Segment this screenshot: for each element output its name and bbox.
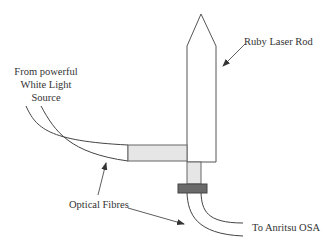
label-source-line3: Source: [31, 92, 60, 103]
fibre-connector: [178, 184, 207, 193]
input-optical-fibre: [26, 106, 128, 161]
label-source-line1: From powerful: [14, 66, 77, 77]
label-optical-fibres: Optical Fibres: [69, 199, 129, 210]
label-ruby-laser-rod: Ruby Laser Rod: [244, 36, 314, 47]
label-to-anritsu-osa: To Anritsu OSA: [252, 222, 321, 233]
diagram-canvas: Ruby Laser Rod From powerful White Light…: [0, 0, 331, 251]
fibre-pointer-arrow-lower: [128, 208, 184, 224]
input-coupler-stub: [128, 145, 187, 161]
output-optical-fibre: [187, 193, 243, 236]
rod-pointer-arrow: [223, 44, 245, 66]
ruby-laser-rod: [187, 14, 216, 162]
label-source-line2: White Light: [20, 79, 71, 90]
output-coupler-stub: [187, 162, 201, 184]
fibre-pointer-arrow-upper: [98, 163, 106, 195]
